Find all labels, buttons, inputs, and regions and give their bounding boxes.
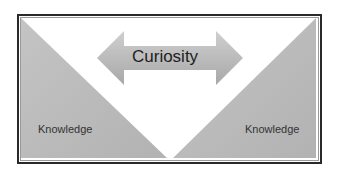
right-knowledge-triangle bbox=[173, 18, 316, 158]
left-knowledge-triangle bbox=[21, 18, 167, 158]
diagram-canvas bbox=[0, 0, 338, 180]
curiosity-label: Curiosity bbox=[132, 47, 198, 67]
right-knowledge-label: Knowledge bbox=[245, 123, 299, 135]
left-knowledge-label: Knowledge bbox=[38, 123, 92, 135]
